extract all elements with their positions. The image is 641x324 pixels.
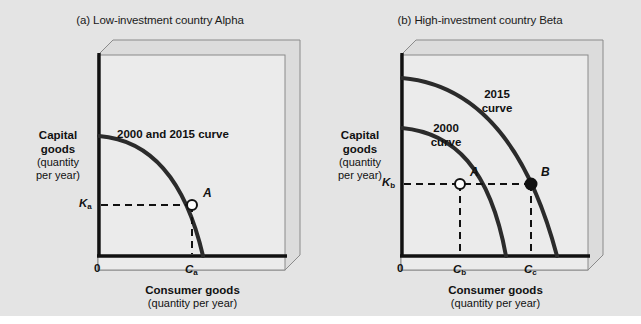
x-caption-line-2: (quantity per year) xyxy=(105,297,280,310)
k-a-tick-subscript: a xyxy=(87,202,91,211)
combined-curve-label: 2000 and 2015 curve xyxy=(117,128,229,142)
y-caption-line-4: per year) xyxy=(23,169,93,182)
curve-2000-label-line-1: 2000 xyxy=(419,122,473,136)
c-b-tick-subscript: b xyxy=(461,268,466,277)
x-caption-line-1: Consumer goods xyxy=(408,283,583,297)
curve-2015-label: 2015 curve xyxy=(470,88,524,115)
c-a-tick-label: Ca xyxy=(185,263,198,275)
c-c-tick-subscript: c xyxy=(532,268,536,277)
y-caption-line-3: (quantity xyxy=(23,156,93,169)
panel-a-y-axis-caption: Capital goods (quantity per year) xyxy=(23,128,93,183)
panel-a-x-axis-caption: Consumer goods (quantity per year) xyxy=(105,283,280,310)
panel-low-investment-alpha: (a) Low-investment country Alpha xyxy=(0,0,320,324)
point-a-marker xyxy=(455,179,465,189)
panel-a-origin-label: 0 xyxy=(94,262,100,274)
c-c-tick-label: Cc xyxy=(524,263,537,275)
curve-2000-label-line-2: curve xyxy=(419,136,473,150)
y-caption-line-3: (quantity xyxy=(325,156,395,169)
point-a-marker xyxy=(187,200,197,210)
y-caption-line-2: goods xyxy=(325,142,395,156)
panel-b-origin-label: 0 xyxy=(397,262,403,274)
x-caption-line-2: (quantity per year) xyxy=(408,297,583,310)
k-a-tick-label: Ka xyxy=(79,197,92,209)
curve-2015-label-line-2: curve xyxy=(470,102,524,116)
c-b-tick-label: Cb xyxy=(453,263,466,275)
y-caption-line-1: Capital xyxy=(325,128,395,142)
point-a-label: A xyxy=(203,186,212,200)
point-b-marker xyxy=(526,179,537,190)
panel-b-x-axis-caption: Consumer goods (quantity per year) xyxy=(408,283,583,310)
y-caption-line-4: per year) xyxy=(325,169,395,182)
plot-area-face xyxy=(98,55,285,270)
c-a-tick-subscript: a xyxy=(193,268,197,277)
y-caption-line-1: Capital xyxy=(23,128,93,142)
curve-2000-label: 2000 curve xyxy=(419,122,473,149)
panel-high-investment-beta: (b) High-investment country Beta xyxy=(320,0,640,324)
panel-b-y-axis-caption: Capital goods (quantity per year) xyxy=(325,128,395,183)
point-b-label: B xyxy=(541,165,550,179)
point-a-label: A xyxy=(470,165,479,179)
curve-2015-label-line-1: 2015 xyxy=(470,88,524,102)
figure-root: (a) Low-investment country Alpha xyxy=(0,0,641,324)
x-caption-line-1: Consumer goods xyxy=(105,283,280,297)
y-caption-line-2: goods xyxy=(23,142,93,156)
